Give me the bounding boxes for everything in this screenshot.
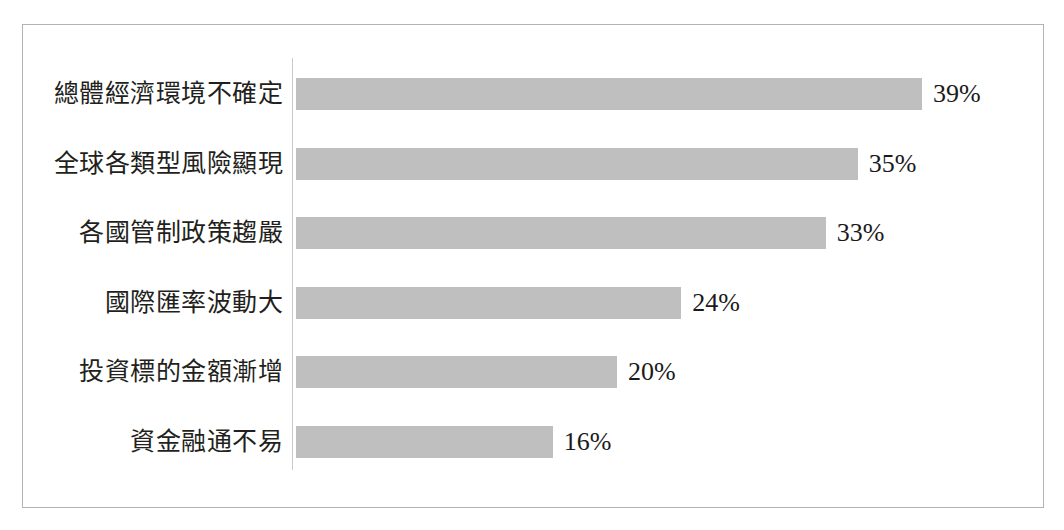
bar-value-label: 20%: [628, 359, 676, 385]
bar: [296, 148, 858, 180]
bar: [296, 78, 922, 110]
bar-row: 國際匯率波動大24%: [0, 287, 1064, 319]
bar-chart-plot-area: 總體經濟環境不確定39%全球各類型風險顯現35%各國管制政策趨嚴33%國際匯率波…: [0, 0, 1064, 530]
bar: [296, 287, 681, 319]
bar-value-label: 24%: [692, 290, 740, 316]
category-label: 全球各類型風險顯現: [0, 150, 283, 178]
bar-value-label: 33%: [837, 220, 885, 246]
category-label: 各國管制政策趨嚴: [0, 219, 283, 247]
chart-figure: 總體經濟環境不確定39%全球各類型風險顯現35%各國管制政策趨嚴33%國際匯率波…: [0, 0, 1064, 530]
bar-value-label: 35%: [869, 151, 917, 177]
category-label: 資金融通不易: [0, 428, 283, 456]
bar-row: 全球各類型風險顯現35%: [0, 148, 1064, 180]
bar: [296, 426, 553, 458]
bar-row: 資金融通不易16%: [0, 426, 1064, 458]
bar-row: 總體經濟環境不確定39%: [0, 78, 1064, 110]
bar: [296, 217, 826, 249]
bar-row: 投資標的金額漸增20%: [0, 356, 1064, 388]
category-label: 投資標的金額漸增: [0, 359, 283, 387]
bar: [296, 356, 617, 388]
category-label: 總體經濟環境不確定: [0, 80, 283, 108]
category-label: 國際匯率波動大: [0, 289, 283, 317]
bar-value-label: 39%: [933, 81, 981, 107]
bar-row: 各國管制政策趨嚴33%: [0, 217, 1064, 249]
bar-value-label: 16%: [564, 429, 612, 455]
